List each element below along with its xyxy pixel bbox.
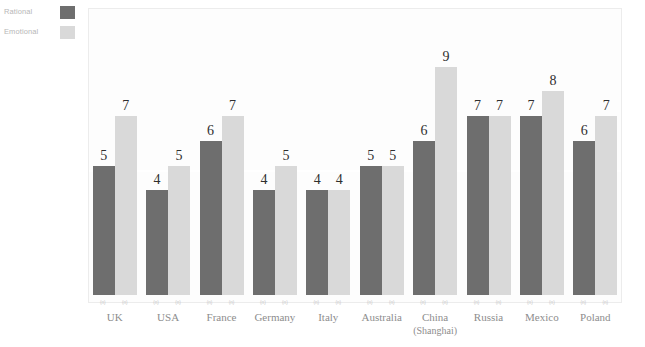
bar-sample-note: (n) [327,300,349,305]
bar-value-label: 6 [200,123,222,139]
bar-group: 6(n)9(n) [413,8,457,295]
bars-layer: 5(n)7(n)4(n)5(n)6(n)7(n)4(n)5(n)4(n)4(n)… [88,8,622,303]
bar-value-label: 6 [413,123,435,139]
bar-group: 4(n)5(n) [146,8,190,295]
bar-rational[interactable] [573,141,595,295]
category-label-main: USA [157,311,179,323]
bar-value-label: 5 [168,148,190,164]
bar-sample-note: (n) [114,300,136,305]
bar-sample-note: (n) [381,300,403,305]
bar-value-label: 7 [467,98,489,114]
bar-group: 6(n)7(n) [573,8,617,295]
bar-emotional[interactable] [222,116,244,295]
bar-emotional[interactable] [275,166,297,296]
bar-sample-note: (n) [145,300,167,305]
category-label-main: France [207,311,237,323]
bar-value-label: 4 [146,172,168,188]
bar-rational[interactable] [467,116,489,295]
bar-value-label: 8 [542,73,564,89]
grouped-bar-chart: Rational Emotional 5(n)7(n)4(n)5(n)6(n)7… [0,0,645,347]
bar-sample-note: (n) [359,300,381,305]
bar-rational[interactable] [93,166,115,296]
bar-emotional[interactable] [435,67,457,295]
bar-value-label: 5 [93,148,115,164]
bar-sample-note: (n) [594,300,616,305]
legend-label-rational: Rational [4,5,32,19]
legend-item-rational: Rational [4,5,82,19]
bar-sample-note: (n) [305,300,327,305]
bar-rational[interactable] [413,141,435,295]
bar-sample-note: (n) [488,300,510,305]
bar-sample-note: (n) [221,300,243,305]
bar-sample-note: (n) [519,300,541,305]
bar-sample-note: (n) [252,300,274,305]
legend-swatch-emotional [60,26,75,39]
bar-value-label: 4 [328,172,350,188]
bar-rational[interactable] [146,190,168,295]
bar-emotional[interactable] [168,166,190,296]
bar-group: 4(n)5(n) [253,8,297,295]
legend-swatch-rational [60,6,75,19]
bar-value-label: 7 [595,98,617,114]
bar-value-label: 7 [115,98,137,114]
bar-rational[interactable] [360,166,382,296]
bar-sample-note: (n) [572,300,594,305]
bar-value-label: 7 [520,98,542,114]
bar-sample-note: (n) [466,300,488,305]
bar-value-label: 7 [222,98,244,114]
bar-sample-note: (n) [199,300,221,305]
legend-label-emotional: Emotional [4,25,38,39]
category-label-main: Poland [580,311,611,323]
bar-sample-note: (n) [92,300,114,305]
bar-emotional[interactable] [489,116,511,295]
bar-rational[interactable] [200,141,222,295]
category-label-poland: Poland [556,310,634,324]
bar-value-label: 9 [435,49,457,65]
bar-emotional[interactable] [542,91,564,295]
bar-emotional[interactable] [382,166,404,296]
bar-group: 7(n)8(n) [520,8,564,295]
bar-sample-note: (n) [541,300,563,305]
category-label-main: Russia [474,311,503,323]
bar-sample-note: (n) [434,300,456,305]
category-label-main: China [422,311,448,323]
bar-emotional[interactable] [115,116,137,295]
bar-value-label: 5 [360,148,382,164]
bar-rational[interactable] [253,190,275,295]
bar-group: 5(n)5(n) [360,8,404,295]
bar-rational[interactable] [520,116,542,295]
bar-emotional[interactable] [595,116,617,295]
bar-value-label: 4 [253,172,275,188]
category-axis: UKUSAFranceGermanyItalyAustraliaChina(Sh… [88,310,622,347]
bar-sample-note: (n) [412,300,434,305]
bar-group: 5(n)7(n) [93,8,137,295]
category-label-main: Italy [318,311,338,323]
bar-group: 4(n)4(n) [306,8,350,295]
bar-value-label: 5 [275,148,297,164]
bar-sample-note: (n) [274,300,296,305]
bar-rational[interactable] [306,190,328,295]
bar-value-label: 5 [382,148,404,164]
bar-sample-note: (n) [167,300,189,305]
bar-group: 7(n)7(n) [467,8,511,295]
bar-group: 6(n)7(n) [200,8,244,295]
legend-item-emotional: Emotional [4,25,82,39]
category-label-main: UK [107,311,123,323]
bar-value-label: 4 [306,172,328,188]
bar-emotional[interactable] [328,190,350,295]
bar-value-label: 7 [489,98,511,114]
category-label-sub: (Shanghai) [396,324,474,337]
bar-value-label: 6 [573,123,595,139]
category-label-main: Mexico [525,311,559,323]
